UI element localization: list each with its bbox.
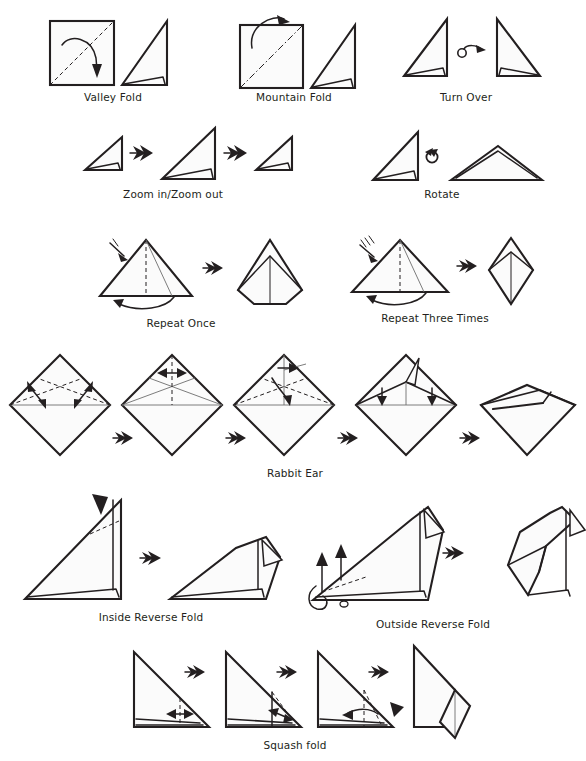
squash-arrow-2 (277, 665, 297, 679)
figure-zoom (85, 128, 292, 179)
inside-reverse-arrow (140, 551, 161, 565)
repeat-three-arrow (457, 259, 477, 273)
figure-repeat-three-times (352, 236, 533, 305)
repeat-once-tick-arrow (110, 239, 128, 262)
rabbit-ear-5-shape (481, 385, 575, 455)
mountain-fold-result-triangle (311, 25, 355, 88)
figure-rabbit-ear-step-5 (481, 385, 575, 455)
caption-inside-reverse-fold: Inside Reverse Fold (99, 611, 204, 623)
mountain-fold-arrowhead (277, 15, 290, 25)
figure-mountain-fold (240, 15, 355, 88)
figure-rabbit-ear-step-3 (234, 355, 334, 455)
inside-reverse-result (170, 537, 282, 599)
repeat-once-arrow (203, 261, 223, 275)
rotate-triangle-before (373, 132, 418, 180)
figure-outside-reverse-fold (309, 507, 585, 609)
repeat-three-result (489, 238, 533, 304)
figure-repeat-once (100, 239, 302, 309)
caption-zoom: Zoom in/Zoom out (123, 188, 223, 200)
squash-arrow-3 (369, 665, 389, 679)
figure-valley-fold (50, 21, 167, 85)
repeat-three-tick-arrow (360, 236, 378, 263)
caption-outside-reverse-fold: Outside Reverse Fold (376, 618, 490, 630)
inside-reverse-triangle (25, 500, 121, 599)
caption-squash-fold: Squash fold (263, 739, 326, 751)
origami-diagram-canvas (0, 0, 586, 761)
zoom-arrow-2 (224, 145, 247, 161)
rabbit-ear-arrow-1 (113, 431, 133, 445)
caption-mountain-fold: Mountain Fold (256, 91, 332, 103)
rabbit-ear-arrow-2 (226, 431, 246, 445)
zoom-arrow-1 (130, 145, 153, 161)
repeat-once-fold-arrow (113, 297, 174, 309)
squash-3-push-wedge (390, 702, 404, 717)
zoom-large-triangle (162, 128, 215, 179)
figure-squash-step-3 (318, 652, 404, 727)
repeat-three-fold-arrow (366, 293, 426, 305)
outside-reverse-arrow-up-1 (316, 552, 328, 592)
turn-over-triangle-before (404, 19, 447, 76)
figure-inside-reverse-fold (25, 494, 282, 599)
outside-reverse-before (309, 507, 444, 609)
figure-squash-step-2 (226, 652, 301, 727)
caption-valley-fold: Valley Fold (84, 91, 142, 103)
figure-squash-step-1 (134, 652, 209, 727)
figure-rabbit-ear-step-2 (122, 355, 222, 455)
caption-repeat-once: Repeat Once (146, 317, 215, 329)
rabbit-ear-arrow-3 (338, 431, 358, 445)
inside-reverse-push-wedge (92, 494, 108, 515)
caption-rabbit-ear: Rabbit Ear (267, 467, 323, 479)
figure-rabbit-ear-step-1 (10, 355, 110, 455)
outside-reverse-result (508, 507, 585, 596)
figure-rabbit-ear-step-4 (356, 355, 456, 455)
caption-repeat-three-times: Repeat Three Times (381, 312, 489, 324)
outside-reverse-arrow (443, 546, 464, 560)
turn-over-triangle-after (497, 19, 540, 76)
squash-3-triangle (318, 652, 393, 727)
caption-turn-over: Turn Over (440, 91, 492, 103)
outside-reverse-body (313, 507, 443, 600)
figure-turn-over (404, 19, 540, 76)
outside-reverse-result-layer (528, 590, 570, 596)
figure-squash-step-4 (414, 646, 470, 738)
outside-reverse-dot (340, 601, 348, 607)
squash-arrow-1 (185, 665, 205, 679)
repeat-once-result (238, 240, 302, 304)
figure-rotate (373, 132, 542, 180)
outside-reverse-result-body (508, 507, 575, 595)
outside-reverse-result-beak (570, 510, 585, 536)
squash-2-triangle (226, 652, 301, 727)
origami-symbols-sheet: Valley Fold Mountain Fold Turn Over Zoom… (0, 0, 586, 761)
caption-rotate: Rotate (424, 188, 459, 200)
valley-fold-result-triangle (122, 21, 167, 85)
rotate-circular-arrow (425, 148, 438, 163)
rabbit-ear-arrow-4 (460, 431, 480, 445)
turn-over-loop-arrow (458, 45, 486, 57)
